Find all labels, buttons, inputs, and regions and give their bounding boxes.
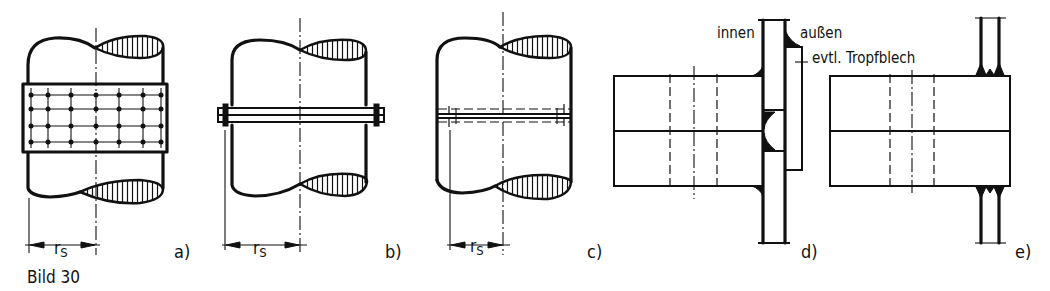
figure-caption: Bild 30 — [27, 267, 80, 287]
panel-d — [614, 20, 808, 243]
panel-a — [23, 28, 167, 255]
panel-label-c: c) — [587, 241, 602, 262]
panel-label-d: d) — [801, 241, 818, 262]
annotation-aussen: außen — [800, 24, 842, 42]
dimension-label-c: rS — [470, 236, 484, 258]
dimension-label-a: rS — [54, 238, 68, 260]
annotation-tropfblech: evtl. Tropfblech — [812, 49, 915, 67]
technical-drawing: rS a) Bild 30 rS b) — [0, 0, 1050, 291]
dimension-label-b: rS — [253, 238, 267, 260]
panel-label-a: a) — [174, 241, 190, 262]
panel-b — [218, 18, 384, 255]
panel-label-e: e) — [1015, 241, 1031, 262]
panel-label-b: b) — [385, 241, 402, 262]
panel-c — [437, 12, 571, 255]
annotation-innen: innen — [717, 24, 755, 42]
